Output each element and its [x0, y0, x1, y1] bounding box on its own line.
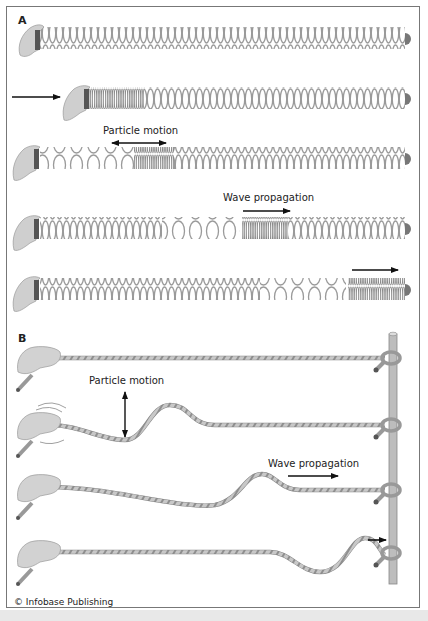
hand-icon: [13, 277, 40, 312]
hand-icon: [63, 86, 90, 121]
rope-row-2: [16, 392, 400, 458]
hand-icon: [16, 403, 66, 458]
copyright-credit: © Infobase Publishing: [14, 597, 113, 607]
spring-row-5: [13, 270, 411, 311]
caption-wave-propagation-a: Wave propagation: [223, 192, 314, 203]
spring-row-4: [13, 211, 411, 250]
spring-row-2: [12, 86, 411, 121]
shake-lines: [36, 407, 62, 412]
hand-icon: [13, 146, 40, 181]
rope-row-1: [16, 347, 400, 392]
diagram-canvas: [0, 0, 428, 621]
panel-label-a: A: [18, 14, 27, 27]
hand-icon: [13, 216, 40, 251]
caption-particle-motion-b: Particle motion: [89, 375, 164, 386]
hand-icon: [16, 475, 61, 520]
rope-row-4: [16, 538, 400, 586]
caption-wave-propagation-b: Wave propagation: [268, 458, 359, 469]
rope-row-3: [16, 474, 400, 520]
spring-row-1: [19, 25, 411, 57]
hand-icon: [19, 25, 44, 57]
hand-icon: [16, 541, 61, 586]
hand-icon: [16, 347, 61, 392]
spring-end-cap: [405, 33, 411, 45]
caption-particle-motion-a: Particle motion: [103, 125, 178, 136]
spring-row-3: [13, 143, 411, 180]
panel-label-b: B: [18, 332, 26, 345]
